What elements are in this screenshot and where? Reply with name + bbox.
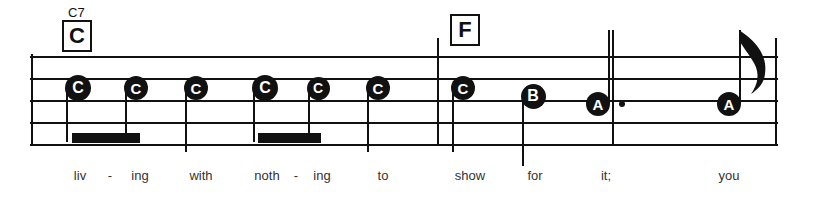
lyric-to: to: [378, 168, 389, 183]
note-7-letter: C: [458, 81, 469, 96]
staff-line-3: [30, 100, 778, 102]
beam-2: [258, 133, 321, 143]
lyric-it: it;: [601, 168, 611, 183]
note-2: C: [124, 76, 148, 100]
lyric-for: for: [527, 168, 542, 183]
note-9-augmentation-dot: [619, 101, 625, 107]
note-10-flag: [738, 30, 772, 96]
measure-barline: [437, 38, 439, 146]
note-5: C: [307, 77, 330, 100]
note-9-stem: [608, 30, 610, 104]
note-7: C: [451, 76, 475, 100]
note-6-stem: [367, 88, 369, 152]
staff-line-4: [30, 122, 778, 124]
lyric-ing-1: ing: [131, 168, 148, 183]
phrase-barline: [612, 30, 614, 146]
lyric-you: you: [719, 168, 740, 183]
closing-barline: [775, 38, 777, 146]
note-3-letter: C: [191, 81, 202, 96]
note-6-letter: C: [373, 81, 384, 96]
lyric-hyphen-2: -: [294, 168, 298, 183]
lyric-liv: liv: [74, 168, 86, 183]
music-notation-sheet: C7CFCCCCCCCBAAliv-ingwithnoth-ingtoshowf…: [0, 0, 817, 198]
note-3: C: [184, 76, 208, 100]
beam-1: [72, 133, 140, 143]
note-1: C: [65, 75, 91, 101]
chord-f-label: F: [458, 19, 471, 41]
note-4-letter: C: [259, 80, 271, 96]
note-5-letter: C: [313, 81, 323, 95]
lyric-ing-2: ing: [313, 168, 330, 183]
note-7-stem: [452, 88, 454, 152]
staff-line-1: [30, 56, 778, 58]
note-3-stem: [185, 88, 187, 152]
note-8: B: [521, 84, 546, 109]
opening-barline: [31, 54, 33, 146]
note-1-letter: C: [72, 80, 84, 96]
note-10-letter: A: [724, 97, 735, 112]
note-6: C: [366, 76, 390, 100]
note-2-letter: C: [131, 81, 142, 96]
chord-c7-superscript: C7: [68, 6, 85, 19]
note-4: C: [252, 75, 278, 101]
chord-c7[interactable]: C: [62, 20, 92, 52]
lyric-hyphen-1: -: [108, 168, 112, 183]
lyric-show: show: [455, 168, 485, 183]
note-8-stem: [522, 96, 524, 166]
lyric-with: with: [189, 168, 212, 183]
note-9: A: [586, 92, 610, 116]
staff-line-5: [30, 144, 778, 146]
note-8-letter: B: [527, 88, 539, 104]
note-9-letter: A: [593, 97, 604, 112]
chord-f[interactable]: F: [450, 14, 480, 46]
chord-c7-label: C: [69, 25, 85, 47]
lyric-noth: noth: [254, 168, 279, 183]
note-10: A: [717, 92, 741, 116]
